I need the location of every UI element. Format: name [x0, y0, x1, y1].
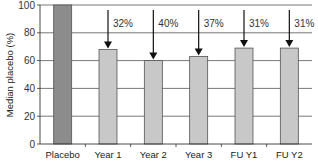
- bar-year-2: [144, 61, 162, 144]
- bar-year-1: [99, 49, 117, 144]
- reduction-label: 31%: [294, 18, 314, 29]
- y-tick-label: 20: [24, 111, 36, 122]
- bar-placebo: [54, 5, 72, 144]
- bar-chart: 32%40%37%31%31% 020406080100PlaceboYear …: [0, 0, 318, 164]
- bar-year-3: [190, 56, 208, 144]
- bar-fu-y1: [235, 48, 253, 144]
- reduction-label: 32%: [113, 18, 133, 29]
- y-tick-label: 0: [29, 139, 35, 150]
- x-tick-label: FU Y1: [231, 149, 258, 160]
- arrow-head-icon: [104, 41, 112, 48]
- x-tick-label: Year 2: [140, 149, 167, 160]
- x-tick-label: Year 1: [94, 149, 121, 160]
- bar-fu-y2: [280, 48, 298, 144]
- y-tick-label: 80: [24, 27, 36, 38]
- y-tick-label: 60: [24, 55, 36, 66]
- x-tick-label: Placebo: [45, 149, 79, 160]
- y-tick-label: 40: [24, 83, 36, 94]
- reduction-label: 40%: [158, 18, 178, 29]
- arrow-head-icon: [149, 53, 157, 60]
- x-tick-label: Year 3: [185, 149, 212, 160]
- y-axis-label: Median placebo (%): [4, 33, 15, 118]
- arrow-head-icon: [195, 48, 203, 55]
- y-tick-label: 100: [18, 0, 35, 11]
- arrow-head-icon: [240, 40, 248, 47]
- x-tick-label: FU Y2: [276, 149, 303, 160]
- arrow-head-icon: [285, 40, 293, 47]
- reduction-label: 31%: [249, 18, 269, 29]
- reduction-label: 37%: [204, 18, 224, 29]
